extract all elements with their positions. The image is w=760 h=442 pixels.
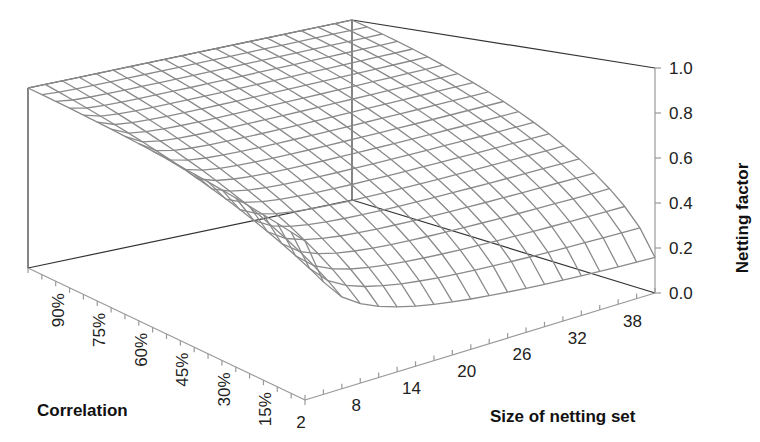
x-tick-label: 26 bbox=[513, 345, 532, 364]
z-tick-label: 0.6 bbox=[669, 149, 693, 168]
mesh-line-n bbox=[62, 81, 342, 297]
mesh-line-rho bbox=[139, 83, 473, 151]
mesh-line-n bbox=[335, 24, 637, 263]
mesh-line-n bbox=[318, 27, 618, 267]
y-tick-label: 30% bbox=[215, 372, 234, 406]
mesh-line-n bbox=[96, 74, 379, 307]
z-tick-label: 0.0 bbox=[669, 284, 693, 303]
z-axis-title: Netting factor bbox=[733, 162, 752, 273]
y-tick-label: 15% bbox=[256, 392, 275, 426]
box-edge bbox=[352, 20, 655, 68]
mesh-line-rho bbox=[111, 65, 443, 133]
y-axis-title: Correlation bbox=[37, 401, 128, 420]
x-tick-label: 38 bbox=[623, 312, 642, 331]
mesh-line-rho bbox=[125, 74, 458, 142]
z-tick-label: 0.2 bbox=[669, 239, 693, 258]
mesh-line-rho bbox=[97, 57, 428, 125]
y-tick-label: 75% bbox=[90, 313, 109, 347]
netting-factor-surface-chart: 0.00.20.40.60.81.0 281420263238 15%30%45… bbox=[0, 0, 760, 442]
z-tick-label: 0.8 bbox=[669, 104, 693, 123]
x-axis-line bbox=[305, 293, 655, 400]
x-tick-label: 2 bbox=[296, 413, 305, 432]
mesh-line-rho bbox=[153, 92, 489, 160]
x-tick-label: 8 bbox=[352, 396, 361, 415]
y-tick-label: 45% bbox=[173, 353, 192, 387]
x-tick-label: 32 bbox=[568, 329, 587, 348]
mesh-line-rho bbox=[28, 20, 352, 88]
x-axis-title: Size of netting set bbox=[490, 407, 636, 426]
y-tick-label: 60% bbox=[132, 333, 151, 367]
y-tick-label: 90% bbox=[49, 293, 68, 327]
z-tick-label: 1.0 bbox=[669, 59, 693, 78]
z-axis: 0.00.20.40.60.81.0 bbox=[655, 59, 693, 303]
z-tick-label: 0.4 bbox=[669, 194, 693, 213]
x-tick-label: 20 bbox=[457, 362, 476, 381]
x-tick-label: 14 bbox=[402, 379, 421, 398]
